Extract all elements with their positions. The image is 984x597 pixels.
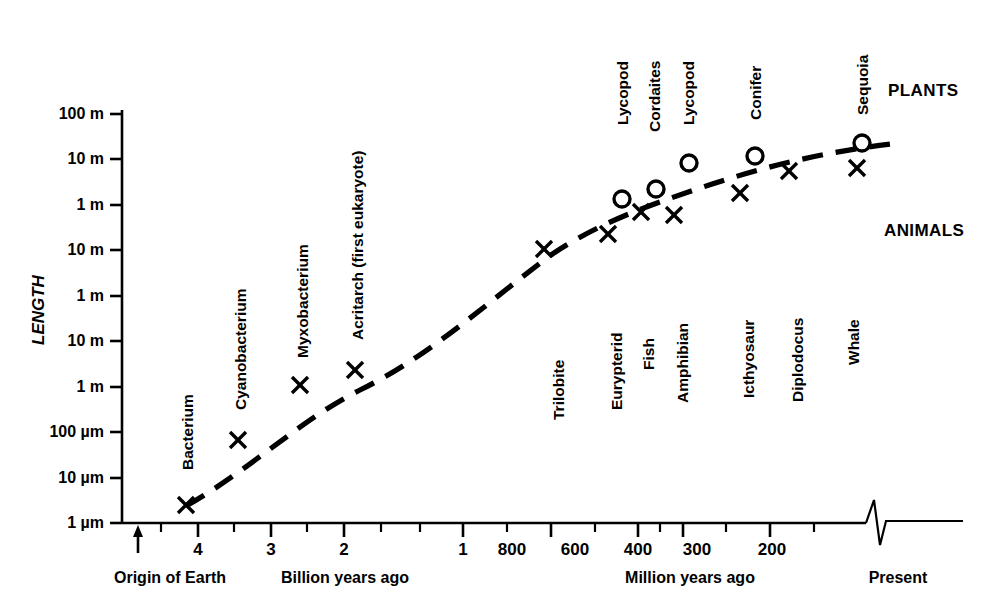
origin-of-earth-label: Origin of Earth: [114, 570, 226, 586]
x-tick-label: 1: [458, 541, 467, 558]
animal-markers: [178, 160, 865, 513]
point-label-trilobite: Trilobite: [551, 360, 567, 420]
x-tick-label: 600: [561, 541, 589, 558]
y-tick-label: 100 µm: [0, 424, 104, 440]
point-label-cyanobacterium: Cyanobacterium: [233, 289, 249, 410]
point-label-amphibian: Amphibian: [675, 323, 691, 403]
chart-plot-area: [0, 0, 984, 597]
x-tick-label: 400: [624, 541, 652, 558]
y-tick-label: 1 m: [0, 197, 104, 213]
point-label-sequoia: Sequoia: [855, 55, 871, 115]
point-label-fish: Fish: [641, 338, 657, 370]
y-tick-label: 1 m: [0, 288, 104, 304]
x-tick-label: 800: [498, 541, 526, 558]
y-tick-label: 1 µm: [0, 515, 104, 531]
y-tick-label: 10 m: [0, 151, 104, 167]
x-axis-minor-ticks: [161, 523, 814, 532]
axis-break-icon: [866, 500, 963, 545]
x-tick-label: 2: [339, 541, 348, 558]
chart-figure: LENGTH 100 m 10 m 1 m 10 m 1 m 10 m 1 m …: [0, 0, 984, 597]
billion-years-ago-label: Billion years ago: [281, 570, 409, 586]
x-tick-label: 4: [193, 541, 202, 558]
y-tick-label: 10 m: [0, 242, 104, 258]
x-tick-label: 3: [266, 541, 275, 558]
million-years-ago-label: Million years ago: [625, 570, 755, 586]
point-label-eurypterid: Eurypterid: [609, 332, 625, 410]
point-label-myxobacterium: Myxobacterium: [295, 244, 311, 358]
present-label: Present: [869, 570, 928, 586]
x-axis-major-ticks: [198, 523, 770, 537]
y-tick-label: 10 µm: [0, 470, 104, 486]
point-label-lycopod-1: Lycopod: [615, 61, 631, 125]
point-label-acritarch: Acritarch (first eukaryote): [350, 150, 366, 340]
plants-group-label: PLANTS: [888, 82, 958, 99]
point-label-whale: Whale: [846, 319, 862, 365]
point-label-cordaites: Cordaites: [647, 61, 663, 133]
x-tick-label: 200: [758, 541, 786, 558]
x-tick-label: 300: [683, 541, 711, 558]
point-label-icthyosaur: Icthyosaur: [741, 320, 757, 398]
y-tick-label: 10 m: [0, 333, 104, 349]
y-axis-ticks: [110, 114, 122, 523]
point-label-bacterium: Bacterium: [180, 394, 196, 470]
origin-of-earth-arrow-icon: [133, 525, 143, 553]
point-label-lycopod-2: Lycopod: [681, 61, 697, 125]
y-tick-label: 100 m: [0, 106, 104, 122]
point-label-conifer: Conifer: [748, 66, 764, 120]
y-tick-label: 1 m: [0, 379, 104, 395]
animals-group-label: ANIMALS: [884, 222, 964, 239]
point-label-diplodocus: Diplodocus: [790, 318, 806, 402]
